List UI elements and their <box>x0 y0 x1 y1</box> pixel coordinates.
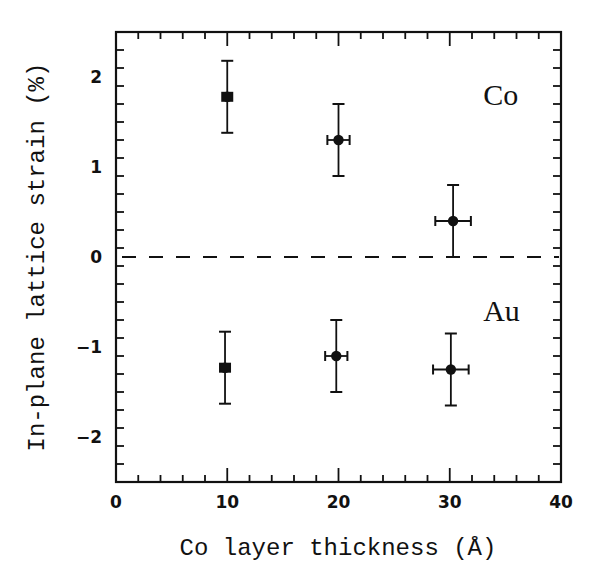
y-tick-label: −1 <box>76 337 102 357</box>
y-tick-label: 1 <box>90 157 102 177</box>
marker-circle <box>333 135 343 145</box>
marker-circle <box>331 351 341 361</box>
series-co <box>221 61 471 257</box>
marker-circle <box>446 364 456 374</box>
series-label-co: Co <box>483 78 518 111</box>
data-point <box>219 332 231 404</box>
data-points <box>219 61 471 406</box>
data-point <box>327 104 349 176</box>
x-tick-label: 10 <box>215 492 239 512</box>
x-tick-label: 0 <box>110 492 122 512</box>
chart-labels: Co layer thickness (Å) In-plane lattice … <box>24 63 520 562</box>
y-tick-label: −2 <box>76 427 102 447</box>
data-point <box>221 61 233 133</box>
y-tick-label: 0 <box>90 247 102 267</box>
series-au <box>219 320 469 406</box>
data-point <box>433 334 469 406</box>
series-label-au: Au <box>483 294 520 327</box>
marker-circle <box>220 363 230 373</box>
marker-circle <box>222 92 232 102</box>
data-point <box>435 185 471 257</box>
x-tick-label: 20 <box>327 492 351 512</box>
strain-chart: 010203040210−1−2 Co layer thickness (Å) … <box>0 0 603 577</box>
x-axis-title: Co layer thickness (Å) <box>180 535 497 562</box>
x-tick-label: 30 <box>438 492 462 512</box>
x-tick-label: 40 <box>549 492 573 512</box>
data-point <box>325 320 347 392</box>
y-tick-label: 2 <box>90 67 102 87</box>
marker-circle <box>448 216 458 226</box>
y-axis-title: In-plane lattice strain (%) <box>24 63 51 452</box>
